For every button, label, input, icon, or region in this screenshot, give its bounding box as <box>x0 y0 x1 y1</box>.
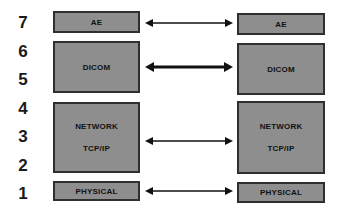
ae-arrow <box>145 19 233 27</box>
network-arrow <box>145 137 233 145</box>
physical-arrow <box>145 187 233 195</box>
dicom-arrow <box>145 62 233 72</box>
connection-arrows <box>0 0 341 214</box>
